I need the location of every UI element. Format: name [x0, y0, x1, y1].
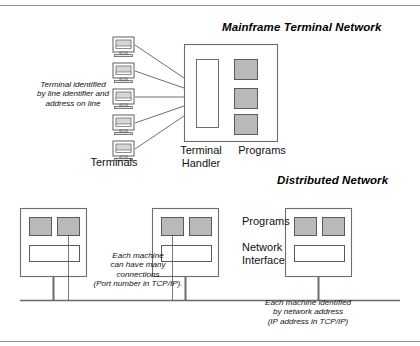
label-programs-mainframe: Programs — [232, 144, 292, 157]
note-many-connections: Each machine can have many connections (… — [78, 251, 198, 288]
distributed-machine-3 — [286, 209, 352, 301]
mainframe-program-2 — [235, 89, 258, 109]
terminal-icon-1 — [113, 37, 134, 57]
note-machine-identified: Each machine identified by network addre… — [228, 298, 388, 326]
distributed-machine-1 — [21, 209, 87, 301]
label-programs-distributed: Programs — [242, 215, 290, 228]
terminal-icon-4 — [113, 115, 134, 135]
mainframe-program-1 — [235, 60, 258, 80]
distributed-section-title: Distributed Network — [277, 174, 388, 186]
figure-canvas: Mainframe Terminal Network Distributed N… — [0, 0, 420, 346]
mainframe-program-3 — [235, 115, 258, 135]
label-terminal-handler: Terminal Handler — [170, 144, 232, 169]
diagram-vector-layer — [0, 0, 420, 346]
note-terminal-identified: Terminal identified by line identifier a… — [18, 80, 128, 108]
terminal-connection-lines — [135, 45, 184, 149]
terminal-handler-box — [197, 60, 219, 128]
mainframe-section-title: Mainframe Terminal Network — [222, 21, 381, 33]
label-network-interface: Network Interface — [242, 241, 285, 267]
label-terminals: Terminals — [80, 156, 148, 169]
